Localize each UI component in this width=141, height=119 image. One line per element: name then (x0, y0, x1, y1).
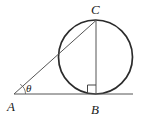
geometry-diagram: A B C θ (0, 0, 141, 119)
geometry-figure-container: A B C θ (0, 0, 141, 119)
label-angle-theta: θ (26, 82, 32, 94)
figure-background (0, 0, 141, 119)
label-point-c: C (91, 2, 100, 17)
label-point-a: A (6, 99, 15, 114)
label-point-b: B (91, 102, 99, 117)
